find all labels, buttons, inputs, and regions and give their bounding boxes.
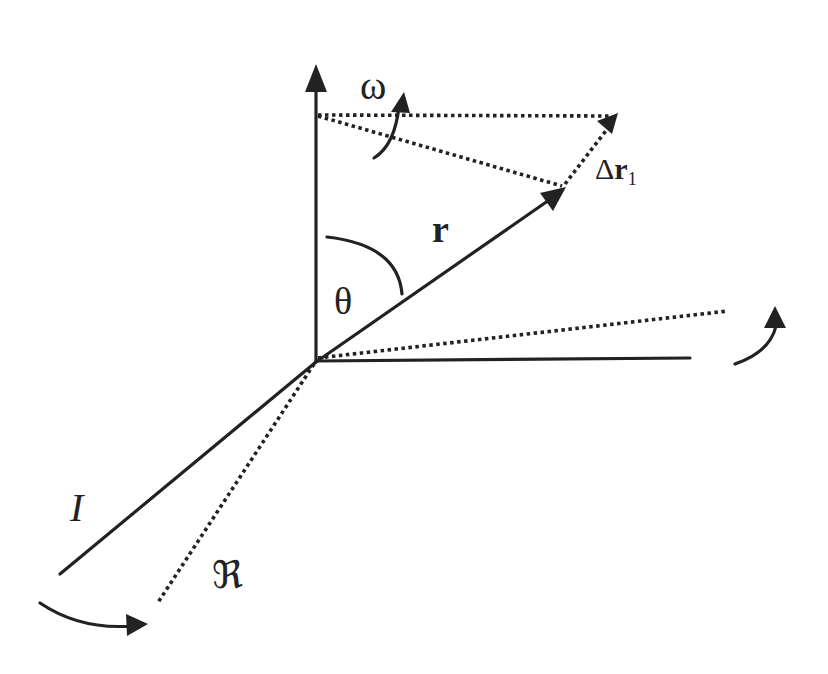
rotating-frame-diagram: [0, 0, 828, 674]
r-label: r: [432, 210, 449, 248]
top-projection-line: [318, 115, 612, 116]
vertical-axis-arrowhead-icon: [305, 64, 327, 92]
rotating-frame-label: ℜ: [212, 556, 243, 594]
delta-r-main: r: [614, 152, 627, 185]
inertial-frame-label: I: [70, 488, 83, 528]
position-vector-arrowhead-icon: [540, 187, 566, 211]
delta-symbol: Δ: [595, 152, 614, 185]
right-rotation-arrowhead-icon: [764, 306, 786, 328]
right-rotation-arrow: [735, 326, 776, 364]
horizontal-axis: [316, 358, 690, 361]
omega-arrowhead-icon: [391, 92, 410, 113]
delta-r-subscript: 1: [628, 169, 637, 189]
inertial-axis: [60, 362, 316, 574]
r-projection-line: [318, 116, 562, 186]
delta-r1-label: Δr1: [595, 154, 637, 188]
bottom-rotation-arrowhead-icon: [126, 614, 148, 636]
bottom-rotation-arrow: [40, 603, 132, 627]
omega-label: ω: [360, 66, 386, 106]
theta-label: θ: [334, 282, 352, 320]
